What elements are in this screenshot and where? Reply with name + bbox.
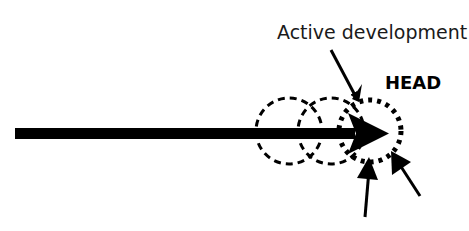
pointer-arrow-from-label bbox=[331, 50, 357, 99]
diagram-canvas: Active development HEAD bbox=[0, 0, 469, 231]
timeline-arrow-shaft bbox=[15, 128, 355, 139]
timeline-arrow bbox=[15, 113, 389, 154]
pointer-arrow-bottom-head bbox=[357, 157, 378, 180]
active-development-label: Active development bbox=[277, 21, 467, 43]
head-label: HEAD bbox=[385, 72, 441, 93]
pointer-arrow-bottom-right-head bbox=[391, 151, 411, 175]
